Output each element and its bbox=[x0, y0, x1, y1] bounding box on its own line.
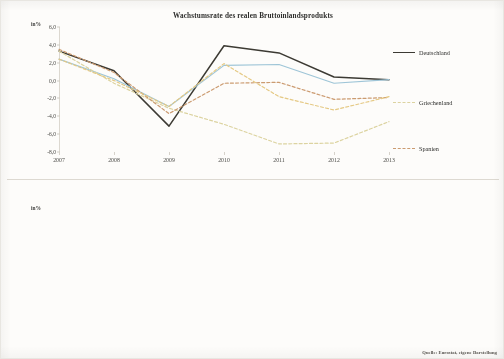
legend-item-spanien[interactable]: Spanien bbox=[393, 145, 439, 152]
x-tick-mark bbox=[389, 152, 390, 155]
plot-area-gdp-growth: 6,04,02,00,0-2,0-4,0-6,0-8,0 20072008200… bbox=[59, 27, 389, 152]
legend-label: Spanien bbox=[419, 145, 439, 152]
y-tick-label: -6,0 bbox=[47, 131, 56, 137]
x-tick-mark bbox=[279, 152, 280, 155]
series-line-spanien bbox=[59, 49, 389, 113]
y-tick-label: -8,0 bbox=[47, 149, 56, 155]
y-axis-unit-label-bottom: in% bbox=[31, 205, 41, 211]
x-tick-label: 2007 bbox=[53, 157, 65, 163]
x-tick-mark bbox=[114, 152, 115, 155]
legend-swatch-dashed-line-icon bbox=[393, 102, 415, 103]
legend-item-deutschland[interactable]: Deutschland bbox=[393, 49, 450, 56]
legend-label: Deutschland bbox=[419, 49, 450, 56]
panel-divider bbox=[7, 179, 499, 180]
y-tick-label: 4,0 bbox=[49, 42, 56, 48]
x-tick-label: 2008 bbox=[108, 157, 120, 163]
x-tick-label: 2009 bbox=[163, 157, 175, 163]
chart-title-gdp-growth: Wachstumsrate des realen Bruttoinlandspr… bbox=[1, 12, 504, 20]
y-axis-unit-label-top: in% bbox=[31, 21, 41, 27]
x-tick-mark bbox=[224, 152, 225, 155]
legend-swatch-solid-line-icon bbox=[393, 52, 415, 53]
chart-panel-gdp-growth: in% Wachstumsrate des realen Bruttoinlan… bbox=[1, 1, 504, 179]
x-tick-label: 2011 bbox=[273, 157, 284, 163]
x-tick-label: 2013 bbox=[383, 157, 395, 163]
series-line-deutschland bbox=[59, 46, 389, 126]
legend-label: Griechenland bbox=[419, 99, 452, 106]
x-tick-label: 2012 bbox=[328, 157, 340, 163]
legend-swatch-dashed-line-icon bbox=[393, 148, 415, 149]
y-tick-label: 2,0 bbox=[49, 60, 56, 66]
y-tick-label: -2,0 bbox=[47, 95, 56, 101]
series-line-portugal bbox=[59, 59, 389, 110]
y-tick-label: 6,0 bbox=[49, 24, 56, 30]
legend-gdp-growth: DeutschlandGriechenlandSpanien bbox=[393, 31, 503, 156]
x-tick-mark bbox=[334, 152, 335, 155]
x-tick-label: 2010 bbox=[218, 157, 230, 163]
y-tick-label: -4,0 bbox=[47, 113, 56, 119]
figure-page: in% Wachstumsrate des realen Bruttoinlan… bbox=[0, 0, 504, 359]
series-lines-gdp-growth bbox=[59, 27, 389, 152]
chart-panel-unemployment: in% Arbeitslosenquote 302520151050 20072… bbox=[1, 181, 504, 359]
x-tick-mark bbox=[169, 152, 170, 155]
y-tick-label: 0,0 bbox=[49, 78, 56, 84]
source-note: Quelle: Eurostat, eigene Darstellung bbox=[422, 350, 497, 355]
legend-item-griechenland[interactable]: Griechenland bbox=[393, 99, 452, 106]
x-tick-mark bbox=[59, 152, 60, 155]
